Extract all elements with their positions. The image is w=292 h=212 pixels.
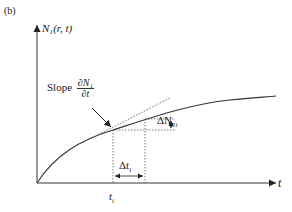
x-axis-label: t — [278, 177, 281, 189]
slope-text: Slope — [47, 81, 72, 93]
delta-t-sub: i — [129, 166, 131, 174]
ti-sub: i — [112, 197, 114, 205]
slope-label: Slope ∂N₁ ∂t — [47, 78, 94, 99]
slope-fraction: ∂N₁ ∂t — [77, 78, 94, 99]
delta-t-label: Δti — [119, 160, 131, 174]
y-axis-label: N₁(r, t) — [42, 23, 72, 34]
delta-n-label: ΔN1i — [157, 115, 177, 129]
slope-pointer-arrow — [92, 108, 111, 127]
growth-curve — [37, 96, 276, 183]
ti-tick-label: ti — [109, 191, 114, 205]
panel-label: (b) — [4, 6, 16, 16]
delta-n-text: ΔN — [157, 114, 172, 126]
delta-n-sub: 1i — [172, 121, 177, 129]
delta-t-text: Δt — [119, 159, 129, 171]
y-axis-label-text: N₁(r, t) — [42, 22, 72, 34]
figure: (b) N₁(r, t) t ti Slope ∂N₁ ∂t ΔN1i Δti — [0, 0, 292, 212]
slope-denominator: ∂t — [77, 89, 94, 99]
tangent-line — [72, 98, 170, 148]
